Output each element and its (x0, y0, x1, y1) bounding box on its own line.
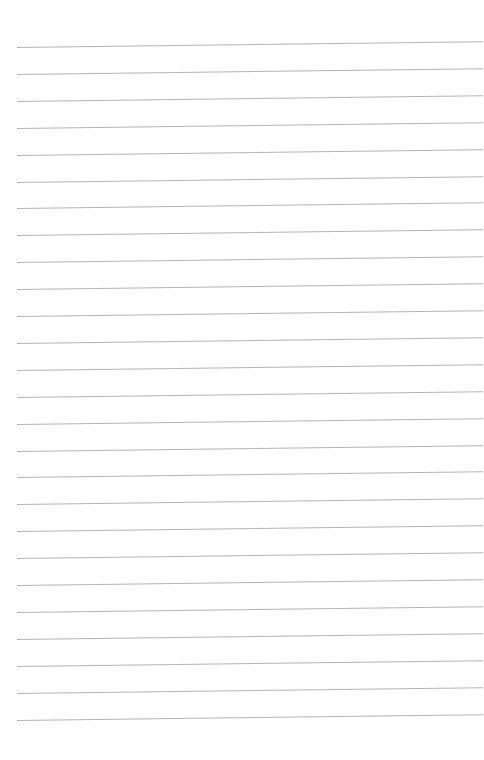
ruled-line (17, 256, 483, 263)
ruled-line (17, 714, 483, 721)
ruled-line (17, 203, 483, 210)
ruled-line (17, 149, 483, 156)
lined-paper-page (0, 0, 484, 760)
ruled-line (17, 579, 483, 586)
ruled-line (17, 660, 483, 667)
ruled-line (17, 229, 483, 236)
ruled-line (17, 337, 483, 344)
ruled-line (17, 606, 483, 613)
ruled-line (17, 418, 483, 425)
ruled-line (17, 391, 483, 398)
ruled-line (17, 445, 483, 452)
ruled-line (17, 283, 483, 290)
ruled-line (17, 552, 483, 559)
ruled-line (17, 122, 483, 129)
ruled-line (17, 687, 483, 694)
ruled-line (17, 68, 483, 75)
ruled-line (17, 176, 483, 183)
ruled-line (17, 41, 483, 48)
ruled-line (17, 498, 483, 505)
ruled-line (17, 525, 483, 532)
ruled-line (17, 95, 483, 102)
ruled-line (17, 364, 483, 371)
ruled-line (17, 633, 483, 640)
ruled-line (17, 472, 483, 479)
ruled-line (17, 310, 483, 317)
